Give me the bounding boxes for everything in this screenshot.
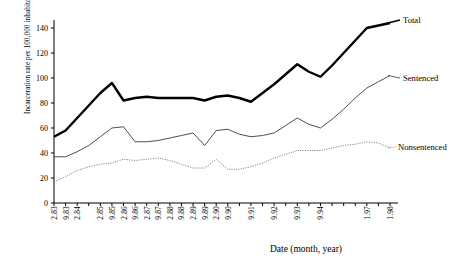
x-tick-label: 9.89 [201, 206, 210, 220]
series-label-nonsentenced: Nonsentenced [398, 142, 447, 152]
x-tick-label-group: 2.839.832.842.859.852.869.862.879.872.88… [0, 206, 456, 240]
x-tick-label: 9.91 [247, 206, 256, 220]
x-tick-label: 1.97 [363, 206, 372, 220]
x-tick-label: 9.94 [316, 206, 325, 220]
x-axis-title: Date (month, year) [270, 244, 342, 254]
x-tick-label: 9.87 [154, 206, 163, 220]
x-tick-label: 2.89 [189, 206, 198, 220]
x-tick-label: 9.90 [224, 206, 233, 220]
x-tick-label: 2.87 [143, 206, 152, 220]
x-tick-label: 2.88 [166, 206, 175, 220]
x-tick-label: 9.85 [108, 206, 117, 220]
leader-line-nonsentenced [388, 147, 396, 148]
series-label-sentenced: Sentenced [403, 73, 438, 83]
x-tick-label: 2.86 [120, 206, 129, 220]
leader-line-total [388, 20, 400, 23]
series-line-nonsentenced [54, 142, 390, 182]
chart-container: Incarceration rate per 100,000 inhabitan… [0, 0, 456, 270]
series-line-sentenced [54, 76, 390, 157]
series-line-total [54, 23, 390, 137]
x-tick-label: 9.88 [177, 206, 186, 220]
series-label-total: Total [403, 15, 421, 25]
x-tick-label: 2.83 [50, 206, 59, 220]
x-tick-label: 9.83 [62, 206, 71, 220]
leader-line-sentenced [388, 76, 400, 79]
x-tick-label: 9.86 [131, 206, 140, 220]
x-tick-label: 2.90 [212, 206, 221, 220]
x-tick-label: 2.85 [96, 206, 105, 220]
x-tick-label: 9.93 [293, 206, 302, 220]
x-tick-label: 2.84 [73, 206, 82, 220]
x-tick-label: 9.92 [270, 206, 279, 220]
x-tick-label: 1.98 [386, 206, 395, 220]
